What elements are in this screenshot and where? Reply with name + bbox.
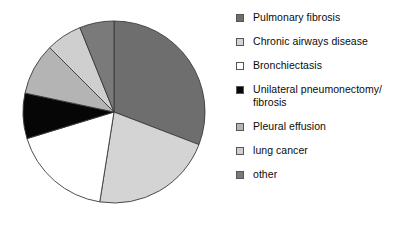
legend-swatch-icon (236, 123, 244, 131)
legend-item-label: Pulmonary fibrosis (253, 11, 340, 24)
legend-swatch-icon (236, 171, 244, 179)
legend-item-label: Pleural effusion (253, 120, 326, 133)
legend-item-label: lung cancer (253, 144, 308, 157)
legend-item[interactable]: Unilateral pneumonectomy/ fibrosis (236, 83, 411, 108)
legend-item-label: Bronchiectasis (253, 59, 322, 72)
chart-legend: Pulmonary fibrosisChronic airways diseas… (236, 11, 411, 223)
legend-swatch-icon (236, 147, 244, 155)
legend-swatch-icon (236, 62, 244, 70)
pie-slice-group (23, 21, 205, 203)
legend-item[interactable]: Pulmonary fibrosis (236, 11, 411, 24)
legend-swatch-icon (236, 38, 244, 46)
pie-chart-svg (21, 19, 207, 205)
legend-swatch-icon (236, 86, 244, 94)
legend-item[interactable]: Bronchiectasis (236, 59, 411, 72)
pie-chart-plot-area (21, 19, 207, 205)
legend-item-label: Chronic airways disease (253, 35, 368, 48)
legend-item-label: Unilateral pneumonectomy/ fibrosis (253, 83, 382, 108)
pie-chart-figure: Pulmonary fibrosisChronic airways diseas… (0, 0, 413, 232)
legend-item-label: other (253, 168, 277, 181)
legend-item[interactable]: lung cancer (236, 144, 411, 157)
legend-item[interactable]: Pleural effusion (236, 120, 411, 133)
legend-swatch-icon (236, 14, 244, 22)
legend-item[interactable]: other (236, 168, 411, 181)
legend-item[interactable]: Chronic airways disease (236, 35, 411, 48)
